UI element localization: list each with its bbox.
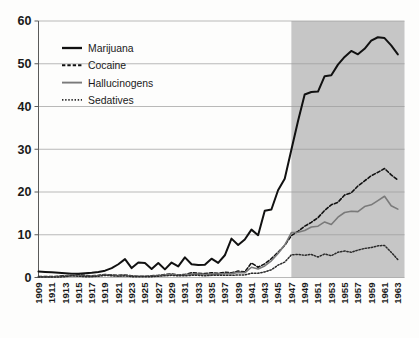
x-axis-tick-label: 1911 [46, 282, 57, 303]
x-axis-tick-label: 1919 [99, 283, 110, 304]
x-axis-tick-label: 1909 [33, 283, 44, 304]
x-axis-tick-group: 1951 [312, 282, 323, 304]
x-axis-tick-group: 1929 [166, 283, 177, 304]
x-axis-tick-label: 1953 [326, 283, 337, 304]
x-axis-tick-group: 1925 [139, 282, 150, 304]
x-axis-tick-label: 1931 [179, 282, 190, 304]
x-axis-tick-label: 1933 [193, 283, 204, 304]
x-axis-tick-label: 1937 [219, 283, 230, 304]
x-axis-tick-group: 1941 [246, 282, 257, 304]
y-axis-tick-label: 40 [18, 100, 32, 114]
y-axis-tick-label: 10 [18, 228, 32, 242]
x-axis-tick-group: 1937 [219, 283, 230, 304]
chart-container: 0102030405060190919111913191519171919192… [0, 0, 419, 338]
x-axis-tick-group: 1933 [193, 283, 204, 304]
x-axis-tick-label: 1941 [246, 282, 257, 304]
x-axis-tick-label: 1955 [339, 282, 350, 304]
y-axis-tick-label: 20 [18, 185, 32, 199]
x-axis-tick-label: 1929 [166, 283, 177, 304]
y-axis-tick-label: 60 [18, 14, 32, 28]
x-axis-tick-label: 1925 [139, 282, 150, 304]
x-axis-tick-group: 1921 [113, 282, 124, 304]
x-axis-tick-group: 1919 [99, 283, 110, 304]
x-axis-tick-label: 1959 [366, 283, 377, 304]
x-axis-tick-group: 1913 [60, 283, 71, 304]
x-axis-tick-group: 1963 [392, 283, 403, 304]
x-axis-tick-label: 1913 [60, 283, 71, 304]
x-axis-tick-group: 1915 [73, 282, 84, 304]
x-axis-tick-label: 1961 [379, 282, 390, 304]
legend-label-hallucinogens: Hallucinogens [88, 78, 153, 89]
y-axis-tick-label: 50 [18, 57, 32, 71]
x-axis-tick-group: 1961 [379, 282, 390, 304]
x-axis-tick-label: 1947 [286, 283, 297, 304]
x-axis-tick-label: 1935 [206, 282, 217, 304]
x-axis-tick-group: 1945 [272, 282, 283, 304]
x-axis-tick-group: 1909 [33, 283, 44, 304]
x-axis-tick-label: 1951 [312, 282, 323, 304]
x-axis-tick-label: 1943 [259, 283, 270, 304]
x-axis-tick-label: 1939 [233, 283, 244, 304]
x-axis-tick-group: 1935 [206, 282, 217, 304]
x-axis-tick-label: 1957 [352, 283, 363, 304]
legend-label-marijuana: Marijuana [88, 43, 134, 54]
x-axis-tick-label: 1923 [126, 283, 137, 304]
x-axis-tick-label: 1945 [272, 282, 283, 304]
x-axis-tick-group: 1953 [326, 283, 337, 304]
x-axis-tick-label: 1927 [153, 283, 164, 304]
y-axis-tick-label: 0 [25, 271, 32, 285]
legend-label-cocaine: Cocaine [88, 60, 126, 71]
x-axis-tick-group: 1955 [339, 282, 350, 304]
x-axis-tick-group: 1947 [286, 283, 297, 304]
x-axis-tick-group: 1917 [86, 283, 97, 304]
chart-svg: 0102030405060190919111913191519171919192… [0, 0, 419, 338]
x-axis-tick-group: 1957 [352, 283, 363, 304]
x-axis-tick-label: 1949 [299, 283, 310, 304]
x-axis-tick-label: 1921 [113, 282, 124, 304]
legend-label-sedatives: Sedatives [88, 95, 134, 106]
x-axis-tick-group: 1943 [259, 283, 270, 304]
x-axis-tick-group: 1927 [153, 283, 164, 304]
x-axis-tick-label: 1963 [392, 283, 403, 304]
x-axis-tick-group: 1939 [233, 283, 244, 304]
x-axis-tick-group: 1959 [366, 283, 377, 304]
x-axis-tick-group: 1931 [179, 282, 190, 304]
x-axis-tick-group: 1923 [126, 283, 137, 304]
x-axis-tick-group: 1949 [299, 283, 310, 304]
y-axis-tick-label: 30 [18, 143, 32, 157]
x-axis-tick-group: 1911 [46, 282, 57, 303]
x-axis-tick-label: 1917 [86, 283, 97, 304]
x-axis-tick-label: 1915 [73, 282, 84, 304]
line-chart: 0102030405060190919111913191519171919192… [0, 0, 419, 338]
